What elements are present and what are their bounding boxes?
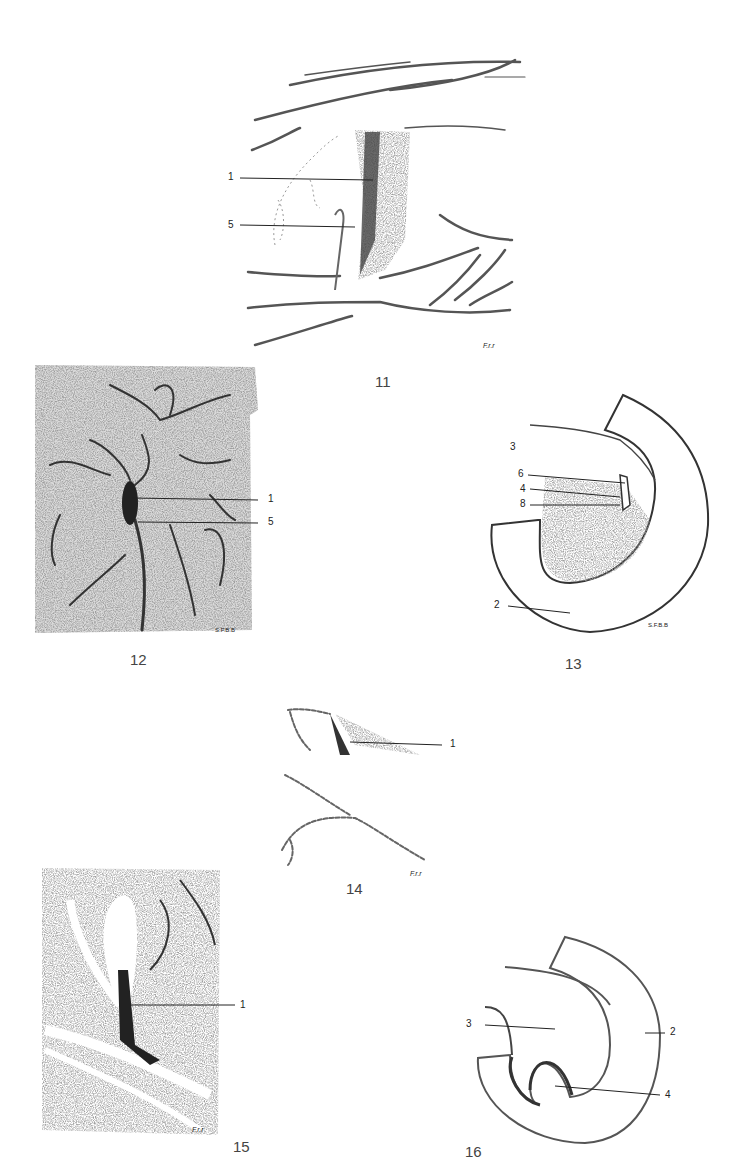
figure-12-signature: S.F.B.B xyxy=(215,627,235,633)
figure-15: 1 F.r.r 15 xyxy=(30,860,290,1170)
figure-12-label-5: 5 xyxy=(268,516,274,527)
figure-11-label-5: 5 xyxy=(228,219,234,230)
figure-13-label-2: 2 xyxy=(494,599,500,610)
figure-15-number: 15 xyxy=(233,1138,250,1155)
figure-14-label-1: 1 xyxy=(450,738,456,749)
figure-15-drawing xyxy=(30,860,230,1140)
figure-13-label-6: 6 xyxy=(518,468,524,479)
figure-13-label-4: 4 xyxy=(520,483,526,494)
figure-15-signature: F.r.r xyxy=(192,1126,204,1133)
figure-14-signature: F.r.r xyxy=(410,870,422,877)
figure-13-signature: S.F.B.B xyxy=(648,622,668,628)
figure-12: 1 5 S.F.B.B 12 xyxy=(30,355,290,675)
figure-14-number: 14 xyxy=(346,880,363,897)
figure-11-label-1: 1 xyxy=(228,171,234,182)
figure-13-number: 13 xyxy=(565,655,582,672)
figure-13-label-3: 3 xyxy=(510,441,516,452)
figure-16-label-3: 3 xyxy=(466,1018,472,1029)
figure-11-number: 11 xyxy=(375,373,391,390)
figure-12-label-1: 1 xyxy=(268,493,274,504)
figure-12-drawing xyxy=(30,355,260,645)
figure-13-drawing xyxy=(480,385,720,645)
figure-12-number: 12 xyxy=(130,651,147,668)
figure-16-label-4: 4 xyxy=(665,1089,671,1100)
figure-16: 3 2 4 16 xyxy=(460,925,720,1170)
figure-11-signature: F.r.r xyxy=(483,342,495,349)
figure-13: 3 6 4 8 2 S.F.B.B 13 xyxy=(480,385,720,685)
figure-14: 1 F.r.r 14 xyxy=(270,700,470,900)
figure-16-label-2: 2 xyxy=(670,1026,676,1037)
figure-16-drawing xyxy=(460,925,700,1155)
figure-13-label-8: 8 xyxy=(520,498,526,509)
figure-11-drawing xyxy=(240,40,540,360)
figure-16-number: 16 xyxy=(465,1143,482,1160)
figure-15-label-1: 1 xyxy=(240,999,246,1010)
figure-11: 1 5 F.r.r 11 xyxy=(240,40,540,400)
figure-14-drawing xyxy=(270,700,470,900)
